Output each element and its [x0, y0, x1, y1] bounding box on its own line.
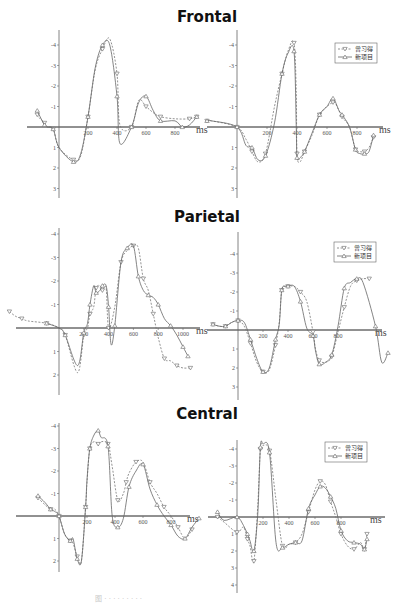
x-axis-unit-label: ms: [370, 514, 382, 525]
y-tick-label: -3: [229, 63, 234, 69]
legend: 曾习得新项目: [334, 242, 376, 262]
figure-caption: 图 · · · · · · · · ·: [95, 595, 142, 603]
y-tick-label: -3: [229, 463, 234, 469]
data-point-marker: [127, 485, 131, 489]
x-tick-label: 800: [154, 331, 163, 337]
data-point-marker: [365, 537, 369, 541]
data-point-marker: [115, 94, 119, 98]
y-tick-label: -1: [229, 104, 234, 110]
data-point-marker: [151, 312, 155, 316]
y-tick-label: 3: [231, 565, 234, 571]
panel-central-left: -4-3-2-112200400600800ms: [16, 423, 201, 572]
data-point-marker: [35, 109, 39, 113]
series-new-item: [35, 40, 199, 163]
data-point-marker: [292, 41, 296, 45]
data-point-marker: [331, 96, 335, 100]
data-point-marker: [106, 444, 110, 448]
y-tick-label: -4: [229, 42, 234, 48]
title-central: Central: [176, 405, 238, 423]
data-point-marker: [176, 526, 180, 530]
data-point-marker: [292, 49, 296, 53]
data-point-marker: [342, 286, 346, 290]
x-tick-label: 200: [83, 519, 92, 525]
panel-central-right: -4-3-2-11234200400600800ms曾习得新项目: [208, 440, 385, 593]
y-tick-label: -1: [230, 308, 235, 314]
legend: 曾习得新项目: [335, 43, 377, 63]
data-point-marker: [258, 445, 262, 449]
data-point-marker: [158, 115, 162, 119]
y-tick-label: -1: [51, 491, 56, 497]
data-point-marker: [252, 560, 256, 564]
data-point-marker: [328, 495, 332, 499]
data-point-marker: [100, 43, 104, 47]
panel-parietal-right: -4-3-2-1123200400600800ms曾习得新项目: [207, 232, 390, 400]
data-point-marker: [136, 274, 140, 278]
series-line: [38, 430, 199, 565]
series-learned: [7, 244, 192, 373]
x-tick-label: 600: [142, 130, 151, 136]
y-tick-label: 1: [53, 145, 56, 151]
series-line: [9, 245, 190, 373]
x-tick-label: 800: [353, 130, 362, 136]
data-point-marker: [330, 353, 334, 357]
data-point-marker: [267, 450, 271, 454]
y-tick-label: 1: [53, 536, 56, 542]
legend-label-new: 新项目: [345, 452, 363, 460]
x-axis-unit-label: ms: [196, 325, 208, 336]
data-point-marker: [318, 480, 322, 484]
x-tick-label: 400: [284, 333, 293, 339]
y-tick-label: 3: [232, 384, 235, 390]
data-point-marker: [141, 277, 145, 281]
y-tick-label: -2: [51, 278, 56, 284]
y-tick-label: 1: [231, 531, 234, 537]
data-point-marker: [373, 324, 377, 328]
y-tick-label: -1: [229, 497, 234, 503]
x-tick-label: 400: [111, 519, 120, 525]
data-point-marker: [295, 156, 299, 160]
legend-label-new: 新项目: [355, 53, 373, 61]
data-point-marker: [263, 154, 267, 158]
y-tick-label: -3: [51, 446, 56, 452]
y-tick-label: 2: [231, 548, 234, 554]
y-tick-label: -3: [51, 63, 56, 69]
series-line: [213, 279, 369, 373]
x-tick-label: 400: [285, 520, 294, 526]
y-tick-label: -2: [51, 83, 56, 89]
panel-frontal-left: -4-3-2-1123200400600800ms: [27, 30, 208, 198]
data-point-marker: [215, 510, 219, 514]
x-tick-label: 800: [171, 130, 180, 136]
y-tick-label: -4: [51, 231, 56, 237]
y-tick-label: 2: [232, 365, 235, 371]
data-point-marker: [162, 505, 166, 509]
x-tick-label: 200: [259, 333, 268, 339]
legend-label-new: 新项目: [354, 252, 372, 260]
y-tick-label: 2: [53, 372, 56, 378]
title-parietal: Parietal: [174, 208, 240, 226]
data-point-marker: [36, 494, 40, 498]
y-tick-label: -2: [229, 480, 234, 486]
series-learned: [36, 441, 194, 564]
y-tick-label: 3: [231, 186, 234, 192]
data-point-marker: [20, 317, 24, 321]
series-line: [37, 40, 197, 162]
data-point-marker: [42, 123, 46, 127]
series-line: [47, 244, 188, 366]
y-tick-label: 3: [53, 186, 56, 192]
x-axis-unit-label: ms: [196, 124, 208, 135]
y-tick-label: -4: [229, 446, 234, 452]
y-tick-label: 2: [231, 165, 234, 171]
data-point-marker: [386, 351, 390, 355]
x-tick-label: 800: [334, 333, 343, 339]
y-tick-label: -4: [51, 423, 56, 429]
data-point-marker: [306, 510, 310, 514]
panel-parietal-left: -4-3-2-1122004006008001000ms: [7, 228, 208, 395]
y-tick-label: -2: [229, 83, 234, 89]
x-axis-unit-label: ms: [379, 124, 391, 135]
legend-label-learned: 曾习得: [354, 244, 372, 252]
data-point-marker: [7, 310, 11, 314]
x-tick-label: 600: [139, 519, 148, 525]
data-point-marker: [141, 462, 145, 466]
y-tick-label: -2: [230, 289, 235, 295]
y-tick-label: -4: [230, 251, 235, 257]
y-tick-label: -4: [51, 42, 56, 48]
